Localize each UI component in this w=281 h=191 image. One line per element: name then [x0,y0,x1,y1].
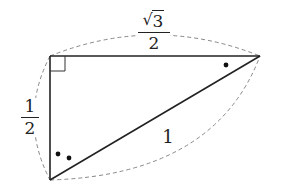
left-side-label: 1 2 [21,98,39,137]
top-side-label-numerator: 3 [144,13,165,30]
right-angle-marker [50,56,65,71]
hypotenuse-label-text: 1 [162,126,173,147]
top-side-label-denominator: 2 [149,35,160,52]
top-side-label: 3 2 [138,13,170,52]
hypotenuse-label: 1 [160,128,176,146]
angle-dot-bottom-1 [56,152,61,157]
angle-dot-bottom-2 [67,156,72,161]
radicand: 3 [152,10,165,31]
left-side-label-denominator: 2 [25,120,36,137]
angle-dot-right-vertex [224,63,229,68]
left-side-label-numerator: 1 [25,98,36,115]
